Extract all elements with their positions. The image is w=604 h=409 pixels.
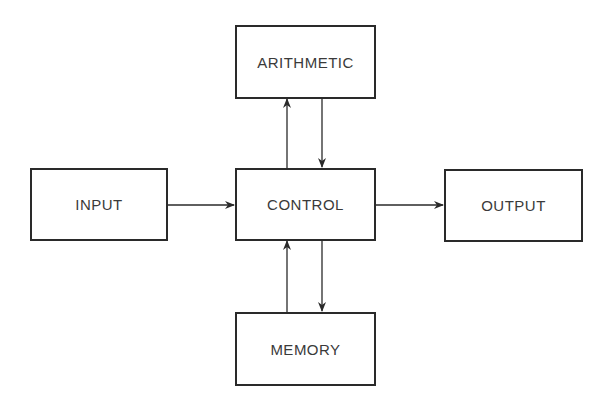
output-label: OUTPUT [481, 197, 546, 214]
output-box: OUTPUT [444, 169, 583, 242]
input-label: INPUT [75, 196, 123, 213]
memory-label: MEMORY [270, 341, 340, 358]
input-box: INPUT [30, 168, 168, 241]
computer-architecture-diagram: ARITHMETIC INPUT CONTROL OUTPUT MEMORY [0, 0, 604, 409]
arithmetic-label: ARITHMETIC [257, 54, 354, 71]
memory-box: MEMORY [235, 312, 376, 386]
arithmetic-box: ARITHMETIC [235, 25, 376, 99]
control-box: CONTROL [235, 168, 376, 241]
control-label: CONTROL [267, 196, 344, 213]
